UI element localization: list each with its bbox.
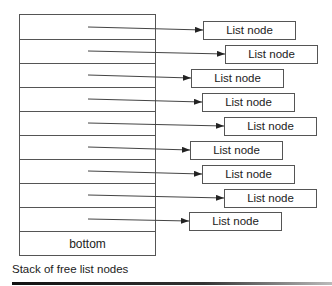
pointer-arrow (88, 219, 189, 221)
pointer-arrow (88, 27, 203, 30)
list-node: List node (191, 69, 284, 88)
pointer-arrow (88, 75, 191, 78)
list-node: List node (224, 189, 317, 208)
figure-caption: Stack of free list nodes (12, 263, 128, 275)
pointer-arrow (88, 147, 190, 150)
pointer-arrow (88, 123, 224, 126)
pointer-arrow (88, 171, 202, 174)
list-node: List node (202, 165, 295, 184)
list-node: List node (203, 21, 296, 40)
list-node: List node (225, 45, 318, 64)
pointer-arrow (88, 99, 202, 102)
divider-rule (12, 282, 332, 285)
list-node: List node (202, 93, 295, 112)
list-node: List node (224, 117, 317, 136)
list-node: List node (190, 141, 283, 160)
pointer-arrow (88, 51, 225, 54)
pointer-arrow (88, 195, 224, 198)
list-node: List node (189, 212, 282, 231)
